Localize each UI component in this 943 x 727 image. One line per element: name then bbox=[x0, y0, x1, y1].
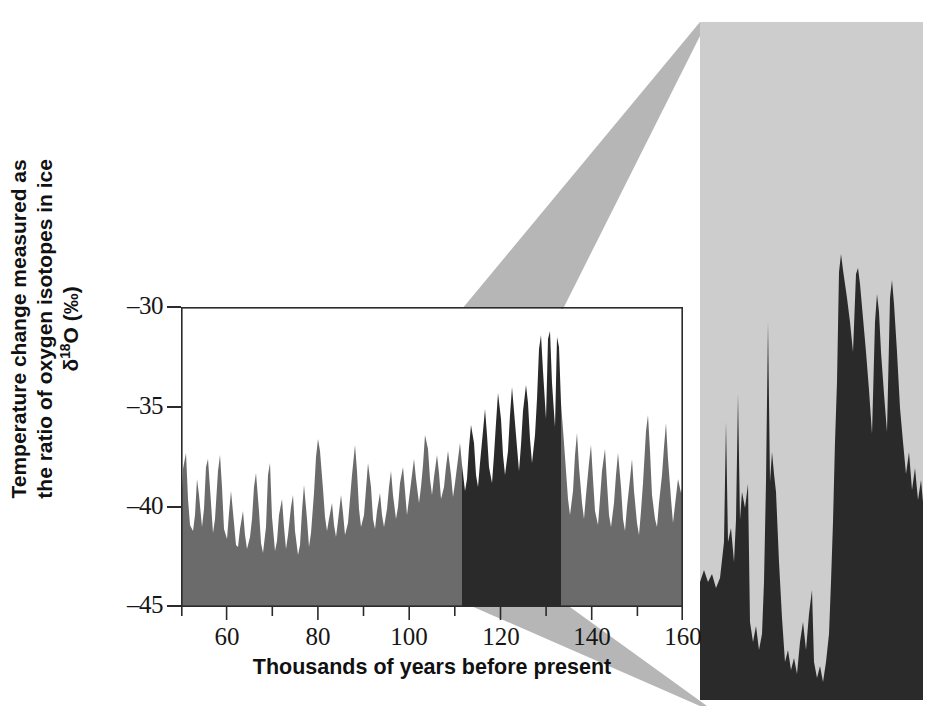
x-tick-label-140: 140 bbox=[557, 623, 627, 651]
isotope-superscript: 18 bbox=[57, 343, 73, 358]
figure-canvas: –30 –35 –40 –45 60 80 100 120 140 160 Te… bbox=[0, 0, 943, 727]
y-tick-label-minus40: –40 bbox=[105, 492, 163, 520]
x-tick-label-120: 120 bbox=[466, 623, 536, 651]
x-tick-label-80: 80 bbox=[283, 623, 353, 651]
y-axis-title-line2: the ratio of oxygen isotopes in ice bbox=[32, 9, 58, 649]
y-tick-mark-minus30 bbox=[167, 306, 181, 308]
connector-wedge-upper bbox=[455, 18, 707, 313]
y-tick-label-minus45: –45 bbox=[105, 591, 163, 619]
y-tick-mark-minus35 bbox=[167, 406, 181, 408]
x-axis-ticks bbox=[181, 607, 684, 621]
series-area-fill bbox=[181, 331, 683, 607]
y-tick-label-minus35: –35 bbox=[105, 392, 163, 420]
x-tick-label-160: 160 bbox=[648, 623, 718, 651]
x-tick-label-60: 60 bbox=[192, 623, 262, 651]
delta-symbol: δ bbox=[59, 359, 82, 372]
main-plot-area bbox=[181, 307, 683, 607]
x-axis-title: Thousands of years before present bbox=[181, 655, 683, 680]
inset-series-path bbox=[700, 254, 923, 700]
y-axis-title: Temperature change measured as the ratio… bbox=[6, 9, 84, 649]
inset-area-plot bbox=[700, 22, 923, 700]
magnified-detail-panel bbox=[700, 22, 923, 700]
permil-units: O (‰) bbox=[59, 286, 82, 343]
y-axis-title-line1: Temperature change measured as bbox=[6, 9, 32, 649]
y-tick-mark-minus40 bbox=[167, 506, 181, 508]
y-axis-title-line3: δ18O (‰) bbox=[57, 9, 84, 649]
y-tick-label-minus30: –30 bbox=[105, 292, 163, 320]
x-tick-label-100: 100 bbox=[374, 623, 444, 651]
y-axis-title-line2-text: the ratio of oxygen isotopes in ice bbox=[33, 159, 56, 499]
y-tick-mark-minus45 bbox=[167, 605, 181, 607]
